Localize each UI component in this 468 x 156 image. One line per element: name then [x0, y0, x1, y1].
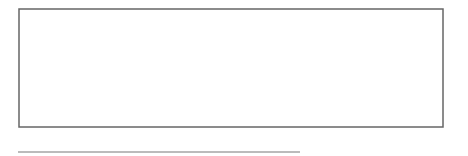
number-line-diagram	[0, 0, 468, 156]
plot-frame	[19, 9, 443, 127]
